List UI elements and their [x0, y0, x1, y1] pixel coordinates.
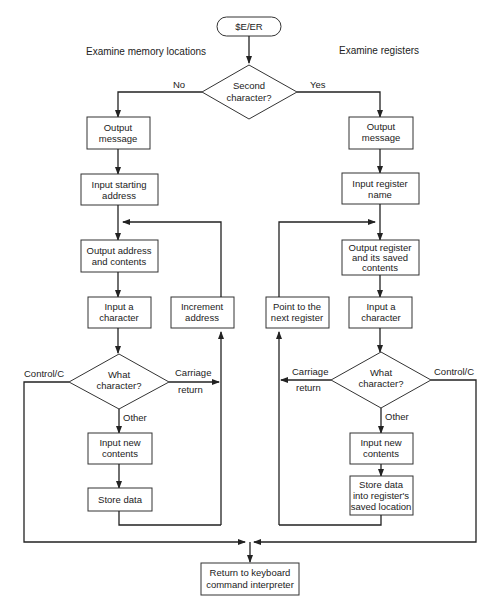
- start-label: $E/ER: [235, 21, 263, 32]
- section-title-memory: Examine memory locations: [86, 46, 206, 57]
- svg-text:Input register: Input register: [352, 178, 407, 189]
- connector: [297, 92, 380, 117]
- svg-text:next register: next register: [271, 312, 323, 323]
- right-store-data-register: Store data into register's saved locatio…: [350, 476, 413, 515]
- left-input-new-contents: Input new contents: [88, 433, 152, 464]
- svg-text:contents: contents: [363, 448, 399, 459]
- left-store-data: Store data: [88, 488, 152, 511]
- right-point-next-register: Point to the next register: [266, 297, 329, 328]
- svg-text:Output: Output: [367, 121, 396, 132]
- svg-text:contents: contents: [362, 262, 398, 273]
- svg-text:name: name: [368, 189, 392, 200]
- svg-text:Input new: Input new: [99, 437, 140, 448]
- svg-text:Input new: Input new: [360, 437, 401, 448]
- svg-text:into register's: into register's: [353, 490, 409, 501]
- svg-text:address: address: [185, 312, 219, 323]
- right-input-register-name: Input register name: [342, 173, 419, 204]
- svg-text:contents: contents: [102, 448, 138, 459]
- left-input-starting-address: Input starting address: [81, 174, 158, 205]
- branch-label-other: Other: [123, 412, 147, 423]
- svg-text:and contents: and contents: [92, 256, 147, 267]
- svg-text:Increment: Increment: [181, 301, 224, 312]
- section-title-registers: Examine registers: [339, 45, 419, 56]
- right-input-character: Input a character: [349, 297, 412, 328]
- left-decision-what-character: What character?: [69, 354, 169, 409]
- svg-text:Point to the: Point to the: [273, 301, 321, 312]
- decision-second-character: Second character?: [202, 65, 297, 119]
- svg-text:character: character: [99, 312, 139, 323]
- svg-text:Input a: Input a: [104, 301, 134, 312]
- svg-text:Return to keyboard: Return to keyboard: [210, 567, 291, 578]
- branch-label-no: No: [173, 79, 185, 90]
- left-increment-address: Increment address: [171, 297, 234, 328]
- svg-text:Output address: Output address: [87, 245, 152, 256]
- svg-text:Store data: Store data: [359, 479, 404, 490]
- flowchart: $E/ER Examine memory locations Examine r…: [0, 0, 495, 608]
- svg-text:Input starting: Input starting: [92, 179, 147, 190]
- branch-label-control-c: Control/C: [24, 368, 64, 379]
- left-output-address-contents: Output address and contents: [81, 240, 158, 272]
- svg-text:address: address: [102, 190, 136, 201]
- right-decision-what-character: What character?: [331, 352, 431, 408]
- svg-text:character?: character?: [227, 92, 272, 103]
- svg-text:character?: character?: [359, 378, 404, 389]
- svg-text:What: What: [108, 369, 131, 380]
- svg-text:What: What: [370, 367, 393, 378]
- svg-text:return: return: [296, 382, 321, 393]
- svg-text:Store data: Store data: [98, 494, 143, 505]
- end-return-to-interpreter: Return to keyboard command interpreter: [201, 563, 299, 595]
- branch-label-other: Other: [385, 411, 409, 422]
- svg-text:character: character: [361, 312, 401, 323]
- branch-label-control-c: Control/C: [434, 366, 474, 377]
- svg-text:return: return: [178, 384, 203, 395]
- branch-label-carriage-return: Carriage: [175, 367, 211, 378]
- left-output-message: Output message: [87, 117, 150, 149]
- start-terminal: $E/ER: [217, 17, 281, 36]
- left-input-character: Input a character: [88, 297, 151, 328]
- svg-text:Second: Second: [233, 80, 265, 91]
- right-output-message: Output message: [349, 117, 413, 149]
- right-output-register-contents: Output register and its saved contents: [342, 240, 419, 275]
- right-input-new-contents: Input new contents: [350, 433, 413, 464]
- svg-text:command interpreter: command interpreter: [206, 579, 294, 590]
- svg-text:Input a: Input a: [366, 301, 396, 312]
- svg-text:saved location: saved location: [351, 501, 412, 512]
- branch-label-carriage-return: Carriage: [292, 366, 328, 377]
- branch-label-yes: Yes: [310, 79, 326, 90]
- svg-text:message: message: [362, 132, 401, 143]
- connector: [118, 92, 202, 117]
- svg-text:message: message: [99, 133, 138, 144]
- svg-text:Output: Output: [104, 122, 133, 133]
- svg-text:character?: character?: [97, 380, 142, 391]
